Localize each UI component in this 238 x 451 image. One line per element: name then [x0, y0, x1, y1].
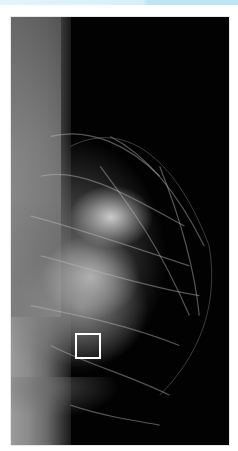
mammogram-image	[10, 16, 230, 446]
inframammary-region	[11, 377, 161, 446]
top-banner-strip	[0, 0, 238, 5]
region-of-interest-box	[75, 333, 101, 359]
